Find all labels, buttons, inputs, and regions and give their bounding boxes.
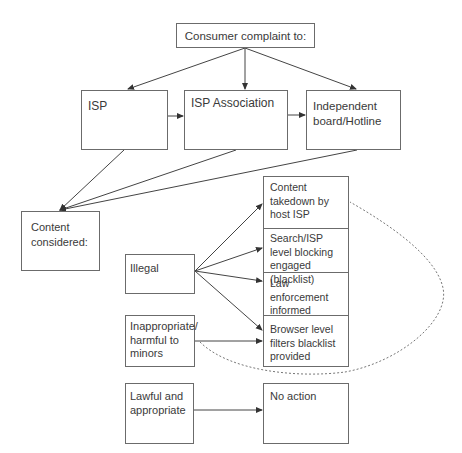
- action-law-enforcement-label: Law enforcement informed: [270, 277, 345, 318]
- arrow-illegal-to-blocking: [195, 248, 262, 271]
- arrow-complaint-to-independent-board: [245, 48, 356, 89]
- arrow-isp-to-content-considered: [60, 150, 124, 210]
- arrow-complaint-to-isp: [128, 48, 245, 89]
- isp-association-box: ISP Association: [184, 90, 288, 150]
- isp-label: ISP: [88, 99, 163, 114]
- arrow-illegal-to-takedown: [195, 204, 262, 271]
- consumer-complaint-label: Consumer complaint to:: [177, 29, 314, 43]
- lawful-label: Lawful and appropriate: [130, 389, 189, 417]
- inappropriate-box: Inappropriate/ harmful to minors: [125, 315, 195, 367]
- action-browser-filters-cell: Browser level filters blacklist provided: [264, 315, 348, 366]
- isp-association-label: ISP Association: [191, 96, 283, 111]
- action-browser-filters-label: Browser level filters blacklist provided: [270, 323, 345, 364]
- no-action-label: No action: [270, 389, 344, 403]
- action-law-enforcement-cell: Law enforcement informed: [264, 272, 348, 315]
- no-action-box: No action: [263, 383, 349, 444]
- isp-box: ISP: [81, 90, 168, 150]
- independent-board-box: Independent board/Hotline: [306, 90, 401, 150]
- action-takedown-cell: Content takedown by host ISP: [264, 177, 348, 228]
- content-considered-box: Content considered:: [21, 211, 100, 271]
- consumer-complaint-box: Consumer complaint to:: [176, 23, 315, 48]
- inappropriate-label: Inappropriate/ harmful to minors: [130, 320, 190, 361]
- lawful-box: Lawful and appropriate: [125, 383, 194, 444]
- content-considered-label: Content considered:: [31, 220, 95, 249]
- action-blocking-cell: Search/ISP level blocking engaged (black…: [264, 228, 348, 272]
- illegal-box: Illegal: [125, 254, 195, 294]
- action-takedown-label: Content takedown by host ISP: [270, 181, 345, 222]
- actions-stack: Content takedown by host ISP Search/ISP …: [263, 176, 349, 367]
- illegal-label: Illegal: [130, 261, 190, 275]
- independent-board-label: Independent board/Hotline: [313, 99, 396, 129]
